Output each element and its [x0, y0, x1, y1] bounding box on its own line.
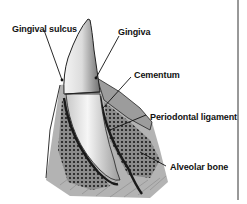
leader-gingiva — [96, 36, 119, 78]
label-gingiva: Gingiva — [118, 27, 150, 37]
label-gingival-sulcus: Gingival sulcus — [12, 24, 77, 34]
tooth-anatomy-diagram: Gingival sulcus Gingiva Cementum Periodo… — [0, 0, 247, 204]
label-cementum: Cementum — [134, 70, 180, 80]
label-alveolar-bone: Alveolar bone — [170, 162, 228, 172]
leader-gingival-sulcus — [44, 30, 62, 80]
label-periodontal-ligament: Periodontal ligament — [150, 112, 237, 122]
